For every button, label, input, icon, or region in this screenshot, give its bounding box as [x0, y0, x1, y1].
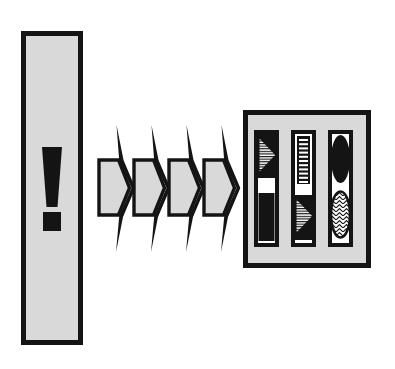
diagram-canvas: Signal propagation diagram ! hatched-rig… — [0, 0, 395, 369]
solid-black-rectangle — [259, 193, 275, 241]
diagram-svg — [0, 0, 395, 369]
hatched-right-triangle-bottom — [293, 193, 315, 242]
exclamation-mark-dot — [43, 212, 61, 231]
target-column-3 — [329, 132, 353, 245]
hatched-right-triangle-top — [256, 132, 278, 180]
striped-vertical-bar — [297, 136, 310, 184]
target-panel — [246, 113, 369, 266]
source-panel — [24, 34, 81, 343]
target-column-1 — [256, 132, 278, 245]
solid-black-ellipse — [331, 135, 350, 183]
target-column-2 — [293, 132, 315, 245]
